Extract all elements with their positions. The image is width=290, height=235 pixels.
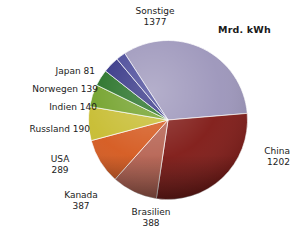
slice-label-norwegen: Norwegen 139 <box>8 84 98 95</box>
slice-label-russland-text: Russland 190 <box>30 124 90 134</box>
slice-label-indien: Indien 140 <box>27 102 97 113</box>
slice-label-china-value: 1202 <box>240 157 290 168</box>
slice-label-brasilien-name: Brasilien <box>132 207 171 217</box>
slice-label-sonstige-name: Sonstige <box>136 6 175 16</box>
slice-label-sonstige-value: 1377 <box>112 17 198 28</box>
slice-label-kanada-value: 387 <box>52 201 110 212</box>
pie-rim-shadow <box>89 41 248 200</box>
slice-label-japan-text: Japan 81 <box>56 66 95 76</box>
slice-label-japan: Japan 81 <box>30 66 95 77</box>
slice-label-norwegen-text: Norwegen 139 <box>32 84 98 94</box>
slice-label-brasilien: Brasilien 388 <box>116 207 186 229</box>
pie-graphic <box>88 40 248 200</box>
slice-label-china-name: China <box>264 146 290 156</box>
unit-label: Mrd. kWh <box>218 24 271 35</box>
slice-label-usa: USA 289 <box>36 154 84 176</box>
slice-label-kanada: Kanada 387 <box>52 190 110 212</box>
slice-label-sonstige: Sonstige 1377 <box>112 6 198 28</box>
slice-label-brasilien-value: 388 <box>116 218 186 229</box>
slice-label-indien-text: Indien 140 <box>49 102 97 112</box>
pie-chart-figure: Mrd. kWh Sonstige 1377 <box>0 0 290 235</box>
slice-label-usa-value: 289 <box>36 165 84 176</box>
slice-label-kanada-name: Kanada <box>64 190 98 200</box>
pie-svg <box>88 40 248 200</box>
slice-label-usa-name: USA <box>51 154 70 164</box>
slice-label-russland: Russland 190 <box>10 124 90 135</box>
slice-label-china: China 1202 <box>240 146 290 168</box>
